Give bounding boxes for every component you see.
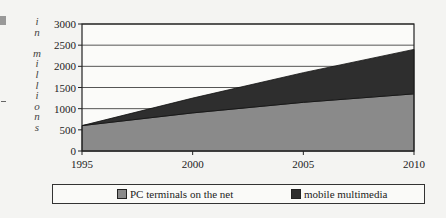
legend: PC terminals on the net mobile multimedi… — [52, 184, 425, 204]
legend-item-mobile: mobile multimedia — [291, 188, 387, 200]
legend-item-pc: PC terminals on the net — [117, 188, 233, 200]
x-tick-label: 2000 — [182, 158, 205, 170]
y-tick-label: 2000 — [54, 60, 77, 72]
legend-label-pc: PC terminals on the net — [130, 188, 233, 200]
x-tick-label: 2010 — [403, 158, 426, 170]
x-tick-label: 1995 — [71, 158, 94, 170]
legend-swatch-mobile — [291, 189, 301, 199]
x-tick-label: 2005 — [292, 158, 315, 170]
y-tick-label: 2500 — [54, 39, 77, 51]
stacked-area-chart: 0500100015002000250030001995200020052010 — [0, 0, 446, 180]
y-tick-label: 3000 — [54, 18, 77, 30]
y-tick-label: 500 — [60, 124, 77, 136]
y-tick-label: 1500 — [54, 82, 77, 94]
y-tick-label: 0 — [71, 145, 77, 157]
legend-label-mobile: mobile multimedia — [304, 188, 387, 200]
legend-swatch-pc — [117, 189, 127, 199]
y-tick-label: 1000 — [54, 103, 77, 115]
